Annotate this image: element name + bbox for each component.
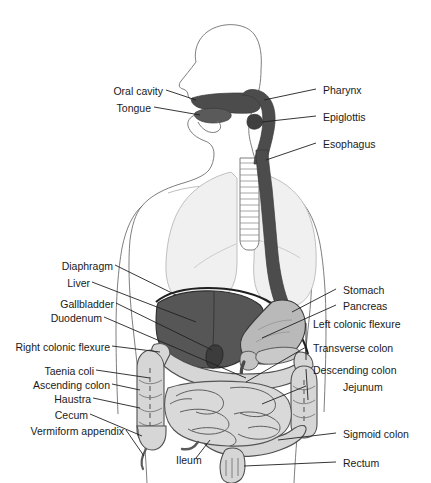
- tongue-shape: [194, 108, 231, 123]
- label-vermiform-appendix: Vermiform appendix: [31, 426, 124, 437]
- label-sigmoid-colon: Sigmoid colon: [343, 429, 409, 440]
- label-duodenum: Duodenum: [51, 313, 102, 324]
- label-taenia-coli: Taenia coli: [44, 366, 94, 377]
- label-oral-cavity: Oral cavity: [113, 86, 163, 97]
- label-stomach: Stomach: [343, 285, 384, 296]
- leader-oral-cavity: [166, 90, 196, 100]
- leader-esophagus: [266, 143, 316, 160]
- label-left-colonic-flexure: Left colonic flexure: [313, 319, 401, 330]
- leader-tongue: [154, 107, 200, 115]
- head-profile-outline: [195, 25, 261, 148]
- small-intestine-group: [165, 381, 292, 446]
- label-haustra: Haustra: [54, 394, 91, 405]
- label-gallbladder: Gallbladder: [60, 299, 114, 310]
- label-epiglottis: Epiglottis: [323, 112, 366, 123]
- cecum-shape: [137, 426, 166, 450]
- label-liver: Liver: [67, 278, 90, 289]
- label-jejunum: Jejunum: [343, 382, 383, 393]
- ileum-shape: [182, 442, 198, 449]
- label-ascending-colon: Ascending colon: [33, 380, 110, 391]
- label-ileum: Ileum: [176, 455, 202, 466]
- trachea-group: [240, 158, 259, 250]
- label-right-colonic-flexure: Right colonic flexure: [15, 342, 110, 353]
- label-rectum: Rectum: [343, 458, 379, 469]
- leader-haustra: [93, 398, 140, 408]
- label-esophagus: Esophagus: [323, 139, 376, 150]
- epiglottis-shape: [247, 114, 263, 129]
- label-tongue: Tongue: [117, 103, 151, 114]
- label-pancreas: Pancreas: [343, 301, 387, 312]
- rectum-shape: [220, 448, 245, 483]
- label-cecum: Cecum: [55, 410, 88, 421]
- lung-left-shape: [166, 172, 237, 305]
- label-transverse-colon: Transverse colon: [313, 343, 393, 354]
- anatomy-figure: Oral cavity Tongue Diaphragm Liver Gallb…: [0, 0, 431, 483]
- leader-ascending-colon: [112, 384, 140, 390]
- leader-pharynx: [264, 89, 316, 100]
- trachea-tube: [240, 158, 259, 250]
- leader-rectum: [244, 462, 336, 466]
- label-pharynx: Pharynx: [323, 85, 362, 96]
- label-diaphragm: Diaphragm: [62, 261, 113, 272]
- label-descending-colon: Descending colon: [313, 365, 396, 376]
